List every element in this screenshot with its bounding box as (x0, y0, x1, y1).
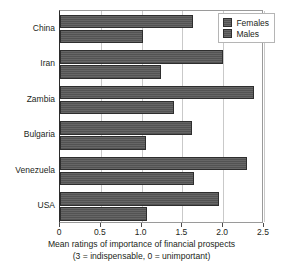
x-axis-tick-label: 2.5 (248, 227, 278, 238)
x-axis: 00.51.01.52.02.5 (59, 223, 263, 239)
y-axis-label-usa: USA (0, 200, 55, 210)
bar-males-zambia (60, 101, 174, 115)
y-axis-label-zambia: Zambia (0, 94, 55, 104)
x-axis-tick-label: 1.0 (126, 227, 156, 238)
bar-males-china (60, 30, 143, 44)
bar-females-usa (60, 192, 219, 206)
y-axis-label-china: China (0, 23, 55, 33)
legend-item-males: Males (223, 28, 269, 39)
bar-females-venezuela (60, 157, 247, 171)
y-axis-label-venezuela: Venezuela (0, 165, 55, 175)
bar-males-bulgaria (60, 136, 146, 150)
legend: FemalesMales (218, 13, 275, 43)
y-axis-category-labels: ChinaIranZambiaBulgariaVenezuelaUSA (0, 10, 55, 223)
bar-females-iran (60, 50, 223, 64)
x-axis-tick-label: 2.0 (207, 227, 237, 238)
x-axis-title: Mean ratings of importance of financial … (0, 239, 283, 250)
legend-label: Males (236, 29, 259, 39)
x-axis-tick-label: 0.5 (85, 227, 115, 238)
x-axis-subtitle: (3 = indispensable, 0 = unimportant) (0, 251, 283, 262)
gridline (182, 11, 183, 222)
legend-item-females: Females (223, 17, 269, 28)
legend-swatch-icon (223, 29, 232, 38)
bar-males-venezuela (60, 172, 194, 186)
y-axis-label-iran: Iran (0, 58, 55, 68)
bar-males-iran (60, 65, 161, 79)
bar-chart: ChinaIranZambiaBulgariaVenezuelaUSA 00.5… (0, 0, 283, 272)
bar-females-bulgaria (60, 121, 192, 135)
bar-males-usa (60, 207, 147, 221)
x-axis-tick-label: 1.5 (166, 227, 196, 238)
legend-label: Females (236, 18, 269, 28)
x-axis-tick-label: 0 (44, 227, 74, 238)
y-axis-label-bulgaria: Bulgaria (0, 129, 55, 139)
bar-females-zambia (60, 86, 254, 100)
legend-swatch-icon (223, 18, 232, 27)
bar-females-china (60, 15, 193, 29)
